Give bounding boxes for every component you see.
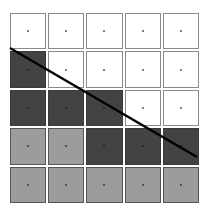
diagonal-line — [0, 0, 210, 214]
